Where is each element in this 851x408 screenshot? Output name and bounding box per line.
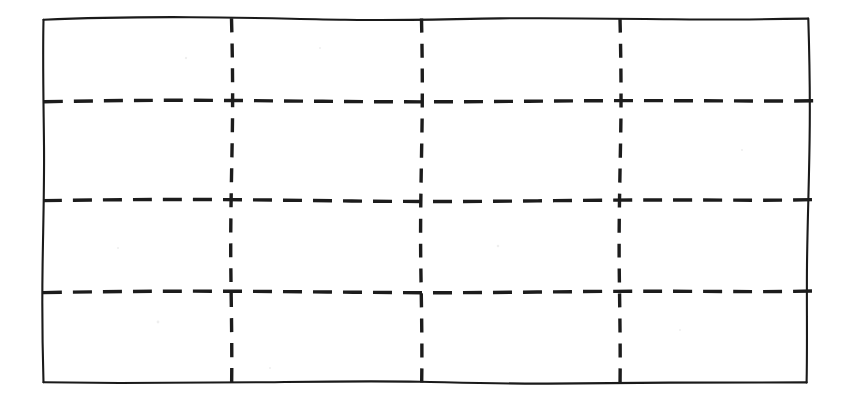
horizontal-dashed-line-2 bbox=[43, 199, 812, 201]
diagram-canvas bbox=[0, 0, 851, 408]
vertical-dashed-line-1 bbox=[231, 18, 233, 387]
border-bottom-edge bbox=[44, 381, 807, 383]
vertical-dashed-lines bbox=[231, 18, 621, 387]
paper-speck bbox=[679, 329, 681, 331]
paper-speck bbox=[497, 245, 500, 248]
paper-speck bbox=[741, 149, 743, 151]
paper-speck bbox=[117, 247, 119, 249]
paper-texture bbox=[117, 47, 743, 369]
paper-speck bbox=[185, 57, 187, 59]
horizontal-dashed-lines bbox=[43, 100, 818, 292]
vertical-dashed-line-3 bbox=[619, 19, 621, 388]
paper-speck bbox=[269, 367, 271, 369]
grid-diagram-svg bbox=[0, 0, 851, 408]
outer-border bbox=[42, 17, 810, 383]
horizontal-dashed-line-3 bbox=[43, 291, 812, 293]
border-top-edge bbox=[44, 17, 809, 20]
paper-speck bbox=[157, 321, 160, 324]
paper-speck bbox=[319, 47, 321, 49]
horizontal-dashed-line-1 bbox=[44, 100, 818, 102]
